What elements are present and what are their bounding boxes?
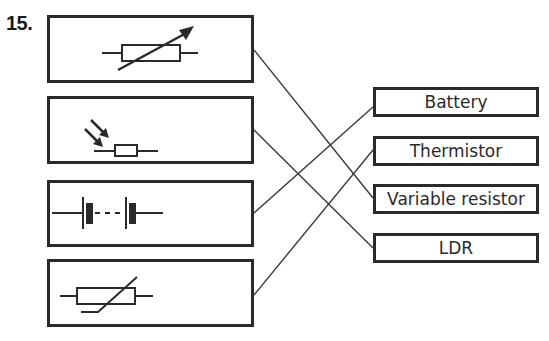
- label-thermistor-text: Thermistor: [410, 141, 503, 161]
- symbol-box-battery: [47, 180, 254, 247]
- symbol-box-thermistor: [47, 259, 254, 327]
- line-variable-resistor: [254, 50, 373, 198]
- question-number: 15.: [6, 12, 32, 35]
- variable-resistor-icon: [50, 18, 257, 86]
- line-battery: [254, 107, 373, 213]
- line-thermistor: [254, 150, 373, 295]
- label-variable-resistor-text: Variable resistor: [387, 189, 525, 209]
- label-ldr: LDR: [373, 233, 539, 263]
- label-thermistor: Thermistor: [373, 136, 539, 166]
- label-battery: Battery: [373, 87, 539, 117]
- battery-icon: [50, 183, 257, 250]
- ldr-icon: [50, 99, 257, 167]
- symbol-box-ldr: [47, 96, 254, 164]
- line-ldr: [254, 130, 373, 248]
- thermistor-icon: [50, 262, 257, 330]
- label-variable-resistor: Variable resistor: [373, 184, 539, 214]
- symbol-box-variable-resistor: [47, 15, 254, 83]
- label-ldr-text: LDR: [439, 238, 473, 258]
- label-battery-text: Battery: [425, 92, 488, 112]
